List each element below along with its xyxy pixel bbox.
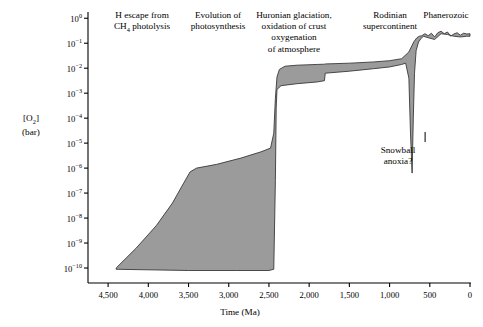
x-tick-label: 2,500 [247,290,291,300]
y-tick-label: 10−1 [34,37,82,49]
x-tick-label: 4,500 [86,290,130,300]
y-tick-label: 10−7 [34,187,82,199]
x-tick-label: 4,000 [126,290,170,300]
y-tick-label: 10−2 [34,62,82,74]
y-tick-label: 10−4 [34,112,82,124]
y-tick-label: 10−3 [34,87,82,99]
y-tick-label: 100 [34,12,82,24]
x-tick-label: 2,000 [287,290,331,300]
annotation-phanerozoic: Phanerozoic [412,10,480,21]
x-axis-title: Time (Ma) [180,307,300,318]
y-tick-label: 10−8 [34,212,82,224]
y-tick-label: 10−10 [34,262,82,274]
x-tick-label: 1,500 [327,290,371,300]
y-axis-title-line2: (bar) [8,127,54,137]
annotation-snowball-anoxia: Snowball anoxia? [358,145,438,167]
annotation-huronian: Huronian glaciation, oxidation of crust … [236,10,352,55]
x-tick-label: 1,000 [368,290,412,300]
y-tick-label: 10−6 [34,162,82,174]
y-tick-label: 10−5 [34,137,82,149]
x-tick-label: 0 [448,290,483,300]
x-tick-label: 3,500 [167,290,211,300]
y-tick-label: 10−9 [34,237,82,249]
oxygen-history-figure: [O2] (bar) Time (Ma) H escape fromCH4 ph… [0,0,483,327]
x-tick-label: 3,000 [207,290,251,300]
x-tick-label: 500 [408,290,452,300]
